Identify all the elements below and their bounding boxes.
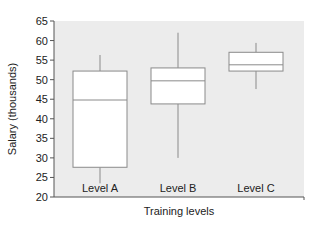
y-tick-label: 35	[36, 132, 48, 144]
iqr-box	[229, 52, 283, 71]
iqr-box	[151, 68, 205, 104]
y-tick-label: 20	[36, 191, 48, 203]
box-plot-chart: Level ALevel BLevel C 202530354045505560…	[0, 0, 322, 226]
category-label: Level B	[160, 182, 197, 194]
y-tick-label: 65	[36, 15, 48, 27]
category-label: Level C	[237, 182, 274, 194]
y-tick-label: 60	[36, 35, 48, 47]
y-tick-label: 50	[36, 74, 48, 86]
y-tick-label: 45	[36, 93, 48, 105]
y-tick-label: 55	[36, 54, 48, 66]
y-tick-label: 30	[36, 152, 48, 164]
y-tick-label: 25	[36, 171, 48, 183]
category-label: Level A	[82, 182, 119, 194]
y-tick-label: 40	[36, 113, 48, 125]
y-axis-label: Salary (thousands)	[6, 63, 18, 155]
iqr-box	[73, 71, 127, 167]
y-axis: 20253035404550556065	[36, 15, 54, 203]
x-axis	[54, 197, 304, 200]
x-axis-label: Training levels	[144, 205, 215, 217]
